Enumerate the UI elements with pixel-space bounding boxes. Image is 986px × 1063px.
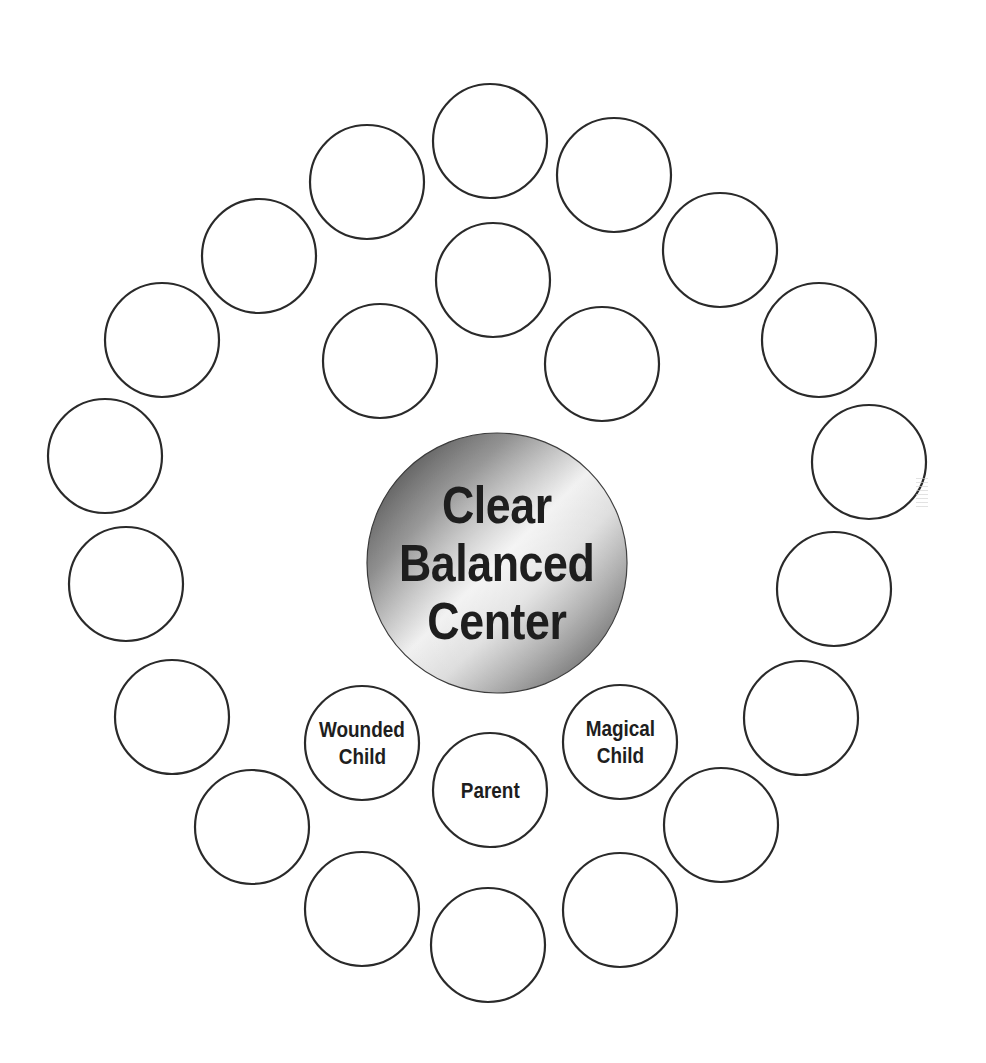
outer-ring-circle-7 (744, 661, 858, 775)
outer-ring-circle-13 (115, 660, 229, 774)
outer-ring-circle-2 (557, 118, 671, 232)
wounded-child-circle (305, 686, 419, 800)
outer-ring-circle-14 (69, 527, 183, 641)
center-node (367, 433, 627, 693)
outer-ring-circle-5 (812, 405, 926, 519)
outer-ring-circle-11 (305, 852, 419, 966)
labeled-nodes-group (305, 685, 677, 847)
outer-ring-circle-16 (105, 283, 219, 397)
outer-ring-circle-4 (762, 283, 876, 397)
outer-ring-circle-18 (310, 125, 424, 239)
outer-ring-circle-9 (563, 853, 677, 967)
inner-empty-circle-2 (323, 304, 437, 418)
outer-ring-circle-17 (202, 199, 316, 313)
inner-empty-circle-3 (545, 307, 659, 421)
outer-ring-circle-8 (664, 768, 778, 882)
parent-circle (433, 733, 547, 847)
outer-ring-circle-15 (48, 399, 162, 513)
outer-ring-circle-6 (777, 532, 891, 646)
center-circle-sheen (367, 433, 627, 693)
inner-empty-circle-1 (436, 223, 550, 337)
magical-child-circle (563, 685, 677, 799)
circle-diagram (0, 0, 986, 1063)
outer-ring-circle-12 (195, 770, 309, 884)
scan-artifact (916, 478, 928, 508)
inner-empty-nodes-group (323, 223, 659, 421)
outer-ring-circle-3 (663, 193, 777, 307)
outer-ring-circle-1 (433, 84, 547, 198)
outer-ring-circle-10 (431, 888, 545, 1002)
